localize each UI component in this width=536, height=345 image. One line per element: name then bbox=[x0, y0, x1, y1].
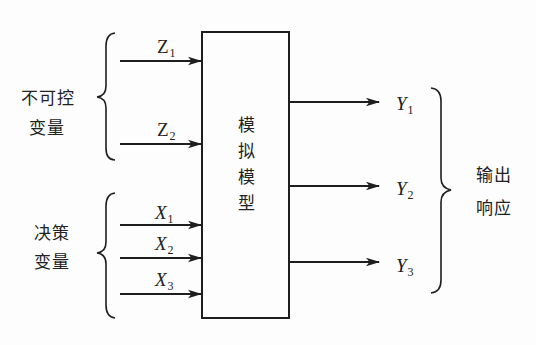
box-char-2: 拟 bbox=[236, 138, 256, 164]
uncontrollable-label-line1: 不可控 bbox=[21, 90, 75, 107]
box-char-3: 模 bbox=[236, 164, 256, 190]
label-y2: Y2 bbox=[396, 179, 414, 201]
label-x3: X3 bbox=[155, 270, 174, 292]
output-label-line2: 响应 bbox=[476, 200, 512, 217]
simulation-model-label: 模 拟 模 型 bbox=[236, 112, 256, 216]
box-char-1: 模 bbox=[236, 112, 256, 138]
brace-uncontrollable bbox=[97, 33, 115, 160]
brace-decision bbox=[97, 193, 115, 318]
label-z1: Z1 bbox=[157, 37, 176, 59]
label-y3: Y3 bbox=[396, 256, 414, 278]
box-char-4: 型 bbox=[236, 190, 256, 216]
output-label-line1: 输出 bbox=[476, 167, 512, 184]
decision-label-line2: 变量 bbox=[34, 254, 70, 271]
label-y1: Y1 bbox=[396, 94, 414, 116]
label-z2: Z2 bbox=[157, 120, 176, 142]
uncontrollable-label-line2: 变量 bbox=[29, 120, 65, 137]
label-x1: X1 bbox=[155, 203, 174, 225]
diagram-graphics bbox=[0, 0, 536, 345]
label-x2: X2 bbox=[155, 234, 174, 256]
simulation-model-diagram: 模 拟 模 型 不可控 变量 决策 变量 输出 响应 Z1 Z2 X1 X2 X… bbox=[0, 0, 536, 345]
brace-output bbox=[431, 88, 451, 293]
decision-label-line1: 决策 bbox=[34, 225, 70, 242]
